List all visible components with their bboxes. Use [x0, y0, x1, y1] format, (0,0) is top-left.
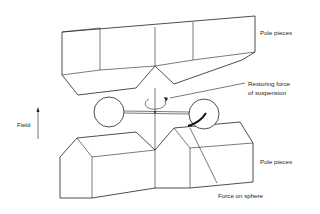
lower-pole-pieces: [60, 122, 253, 198]
label-pole-pieces-top: Pole pieces: [260, 29, 292, 36]
field-arrow: [37, 107, 40, 139]
label-force-on-sphere: Force on sphere: [218, 192, 264, 199]
label-field: Field: [17, 121, 31, 128]
cross-bar: [124, 111, 189, 114]
label-pole-pieces-bottom: Pole pieces: [260, 158, 292, 165]
left-sphere: [94, 97, 124, 127]
label-restoring-force: Restoring force: [248, 80, 291, 87]
diagram-canvas: Pole pieces Restoring force of suspensio…: [0, 0, 320, 214]
rotation-arrow: [145, 97, 168, 109]
upper-pole-pieces: [62, 16, 255, 95]
label-restoring-force-2: of suspension: [248, 89, 287, 96]
